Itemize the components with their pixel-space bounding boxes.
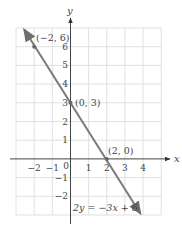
svg-text:−2: −2 bbox=[55, 191, 68, 201]
point-neg2-6 bbox=[32, 45, 36, 49]
svg-text:2: 2 bbox=[62, 117, 68, 127]
svg-text:6: 6 bbox=[62, 42, 68, 52]
svg-text:4: 4 bbox=[62, 79, 68, 89]
point-0-3 bbox=[69, 101, 73, 105]
svg-text:5: 5 bbox=[62, 60, 68, 70]
svg-text:−1: −1 bbox=[55, 173, 68, 183]
point-2-0 bbox=[105, 157, 109, 161]
origin-label: 0 bbox=[63, 161, 69, 171]
svg-text:3: 3 bbox=[122, 163, 128, 173]
x-tick-labels: −2 −1 0 1 2 3 4 bbox=[28, 161, 147, 173]
svg-text:1: 1 bbox=[62, 135, 68, 145]
grid bbox=[16, 28, 161, 215]
x-axis-label: x bbox=[174, 153, 180, 164]
equation-label: 2y = −3x + 6 bbox=[72, 202, 138, 213]
point-label-2-0: (2, 0) bbox=[108, 145, 134, 156]
coordinate-plane: x y −2 −1 0 1 2 3 4 6 5 4 3 2 1 −1 −2 (−… bbox=[0, 0, 182, 236]
y-axis-label: y bbox=[66, 5, 73, 16]
svg-text:−1: −1 bbox=[46, 163, 59, 173]
point-label-0-3: (0, 3) bbox=[75, 97, 101, 108]
svg-text:1: 1 bbox=[86, 163, 92, 173]
svg-text:−2: −2 bbox=[28, 163, 41, 173]
point-label-neg2-6: (−2, 6) bbox=[36, 32, 70, 43]
svg-text:4: 4 bbox=[140, 163, 146, 173]
